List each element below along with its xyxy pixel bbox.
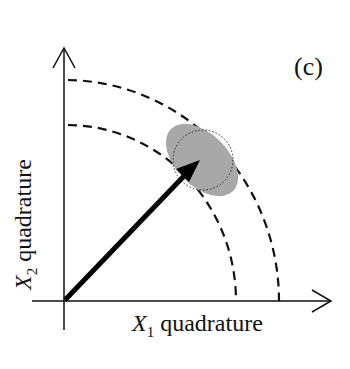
x-axis-variable: X [132, 310, 147, 336]
panel-label: (c) [294, 52, 323, 82]
x-axis-label: X1 quadrature [132, 310, 263, 341]
x-axis-subscript: 1 [147, 324, 155, 340]
x-axis-text: quadrature [160, 310, 263, 336]
y-axis-text: quadrature [10, 159, 36, 262]
y-axis-label: X2 quadrature [10, 159, 41, 290]
amplitude-arrow [65, 176, 184, 300]
y-axis-variable: X [10, 275, 36, 290]
y-axis-subscript: 2 [24, 268, 40, 276]
